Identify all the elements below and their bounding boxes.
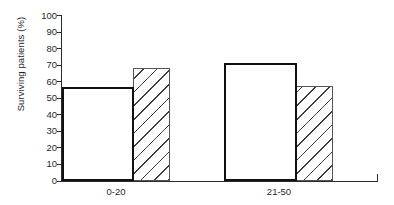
y-tick-label-50: 50	[27, 93, 57, 102]
y-tick-label-100: 100	[27, 11, 57, 20]
x-axis-line	[61, 181, 378, 182]
x-axis-right-endcap	[377, 174, 378, 182]
bar-chart: Surviving patients (%) 100 90 80 70 60 5…	[0, 0, 394, 205]
y-tick-label-70: 70	[27, 60, 57, 69]
y-tick-label-10: 10	[27, 159, 57, 168]
x-category-label-21-50: 21-50	[249, 186, 309, 197]
y-tick-label-0: 0	[27, 176, 57, 185]
y-tick-label-90: 90	[27, 27, 57, 36]
bar-21-50-hatched	[296, 86, 333, 181]
y-tick-label-30: 30	[27, 126, 57, 135]
y-axis-tick-labels: 100 90 80 70 60 50 40 30 20 10 0	[25, 0, 57, 205]
bar-0-20-hatched	[133, 68, 170, 181]
y-tick-label-40: 40	[27, 110, 57, 119]
bar-21-50-open	[224, 63, 297, 181]
bar-0-20-open	[62, 87, 134, 181]
y-tick-label-80: 80	[27, 44, 57, 53]
y-tick-label-60: 60	[27, 77, 57, 86]
x-category-label-0-20: 0-20	[86, 186, 146, 197]
y-tick-label-20: 20	[27, 143, 57, 152]
